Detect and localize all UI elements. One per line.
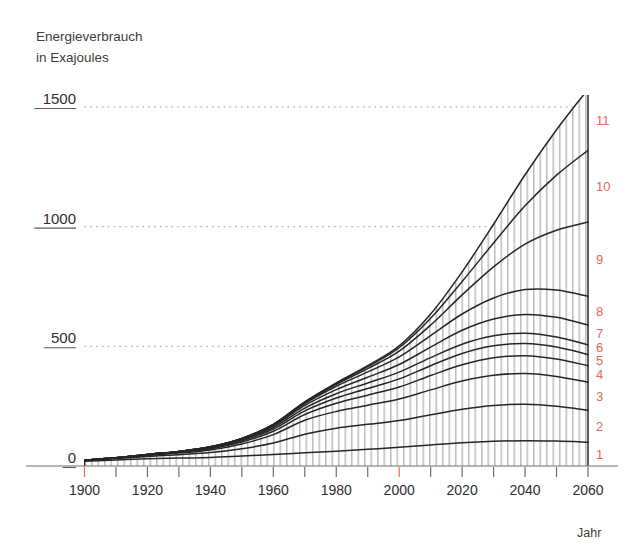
band-number-6: 6: [596, 340, 603, 355]
x-tick-label: 2020: [447, 482, 478, 498]
y-axis: 050010001500: [34, 90, 76, 468]
y-tick-label: 1000: [43, 210, 76, 227]
x-tick-label: 1900: [69, 482, 100, 498]
chart-title-line1: Energieverbrauch: [36, 29, 143, 44]
band-number-labels: 1234567891011: [596, 113, 610, 462]
y-tick-label: 1500: [43, 90, 76, 107]
x-axis: 190019201940196019802000202020402060: [26, 466, 618, 498]
x-tick-label: 2040: [509, 482, 540, 498]
band-number-8: 8: [596, 304, 603, 319]
energy-consumption-chart: Energieverbrauch in Exajoules 0500100015…: [0, 0, 640, 555]
x-tick-label: 1920: [132, 482, 163, 498]
band-number-2: 2: [596, 419, 603, 434]
x-axis-title: Jahr: [577, 526, 601, 540]
band-number-1: 1: [596, 447, 603, 462]
y-tick-label: 0: [68, 449, 76, 466]
band-number-3: 3: [596, 389, 603, 404]
band-number-9: 9: [596, 252, 603, 267]
band-number-11: 11: [596, 113, 610, 128]
x-tick-label: 1960: [258, 482, 289, 498]
band-number-10: 10: [596, 179, 610, 194]
x-tick-label: 2060: [572, 482, 603, 498]
y-tick-label: 500: [51, 329, 76, 346]
band-number-5: 5: [596, 353, 603, 368]
chart-svg: Energieverbrauch in Exajoules 0500100015…: [0, 0, 640, 555]
band-number-4: 4: [596, 367, 603, 382]
x-tick-label: 1940: [195, 482, 226, 498]
x-tick-label: 2000: [384, 482, 415, 498]
stacked-bands: [85, 89, 589, 466]
x-tick-label: 1980: [321, 482, 352, 498]
chart-title-line2: in Exajoules: [36, 50, 109, 65]
band-number-7: 7: [596, 326, 603, 341]
